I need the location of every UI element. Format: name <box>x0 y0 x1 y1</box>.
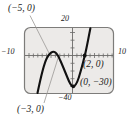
point-root-right <box>83 54 87 58</box>
label-x-right-tick: 10 <box>118 48 126 56</box>
label-root-left: (−5, 0) <box>8 4 35 14</box>
label-root-right: (2, 0) <box>83 60 104 70</box>
cubic-graph-figure: (−5, 0) (−3, 0) 20 −10 10 (2, 0) (0, −30… <box>0 0 136 122</box>
label-y-top-tick: 20 <box>61 15 69 23</box>
label-y-intercept: (0, −30) <box>80 78 112 88</box>
label-y-bottom-tick: −40 <box>58 94 71 102</box>
point-y-intercept <box>71 84 75 88</box>
label-root-mid: (−3, 0) <box>17 105 44 115</box>
label-x-left-tick: −10 <box>1 48 14 56</box>
